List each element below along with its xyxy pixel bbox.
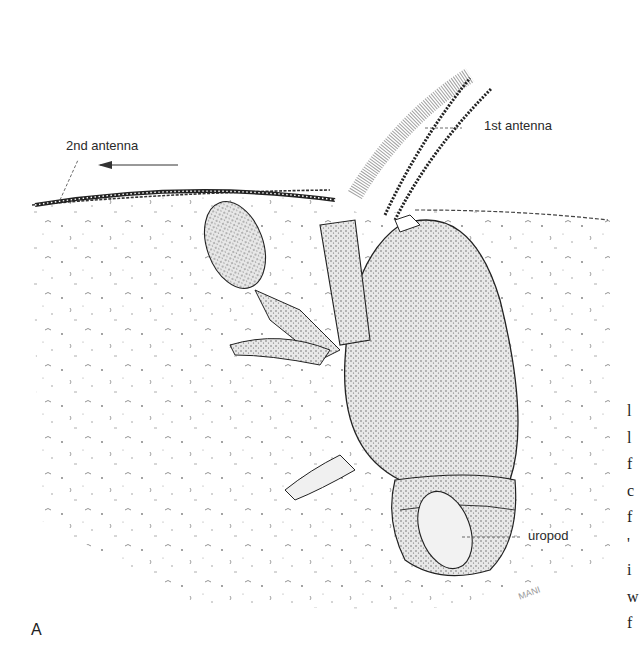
sand-substrate xyxy=(32,190,610,610)
panel-letter: A xyxy=(31,621,42,639)
uropod-label: uropod xyxy=(528,528,568,543)
arrow-left-icon xyxy=(98,161,112,169)
second-antenna-label: 2nd antenna xyxy=(66,138,138,153)
first-antenna xyxy=(355,75,492,220)
first-antenna-label: 1st antenna xyxy=(484,118,552,133)
cropped-side-text: l l f c f ' i w f xyxy=(627,398,639,637)
second-antenna-leader xyxy=(60,160,78,200)
